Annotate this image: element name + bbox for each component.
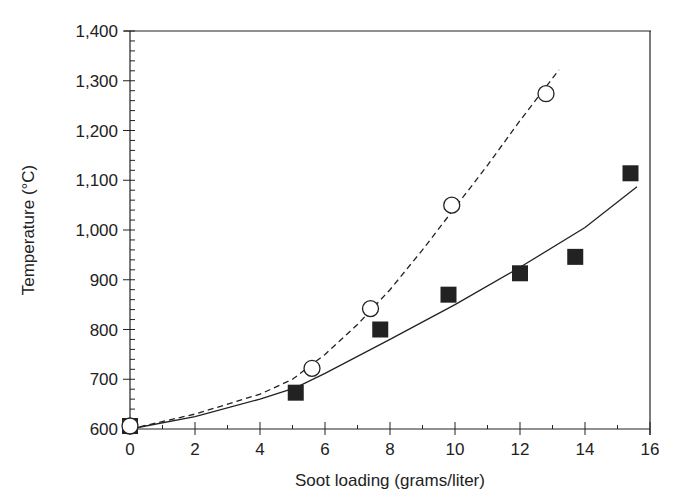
y-tick-label: 1,000 <box>75 221 118 240</box>
x-tick-label: 4 <box>255 440 264 459</box>
x-tick-label: 14 <box>576 440 595 459</box>
fit-lines <box>130 70 637 429</box>
dashed-fit-line <box>130 70 559 429</box>
x-tick-label: 10 <box>446 440 465 459</box>
x-tick-label: 16 <box>641 440 660 459</box>
y-axis: 6007008009001,0001,1001,2001,3001,400 <box>75 22 135 439</box>
y-tick-label: 900 <box>90 271 118 290</box>
y-tick-label: 1,100 <box>75 171 118 190</box>
y-axis-title: Temperature (°C) <box>19 165 38 296</box>
y-tick-label: 1,400 <box>75 22 118 41</box>
y-tick-label: 1,200 <box>75 122 118 141</box>
y-tick-label: 800 <box>90 321 118 340</box>
x-tick-label: 6 <box>320 440 329 459</box>
chart: 6007008009001,0001,1001,2001,3001,400 02… <box>0 0 678 504</box>
circle-marker <box>363 301 379 317</box>
y-tick-label: 1,300 <box>75 72 118 91</box>
x-tick-label: 8 <box>385 440 394 459</box>
data-markers <box>122 86 639 434</box>
solid-fit-line <box>130 187 637 429</box>
x-axis: 0246810121416 <box>125 422 659 459</box>
circle-marker <box>122 418 138 434</box>
square-marker <box>288 385 304 401</box>
x-tick-label: 12 <box>511 440 530 459</box>
x-axis-title: Soot loading (grams/liter) <box>295 471 485 490</box>
plot-frame <box>124 31 651 435</box>
square-marker <box>372 322 388 338</box>
square-marker <box>623 165 639 181</box>
circle-marker <box>304 360 320 376</box>
x-tick-label: 0 <box>125 440 134 459</box>
y-tick-label: 700 <box>90 370 118 389</box>
circle-marker <box>444 197 460 213</box>
y-tick-label: 600 <box>90 420 118 439</box>
square-marker <box>512 265 528 281</box>
square-marker <box>441 287 457 303</box>
square-marker <box>567 249 583 265</box>
x-tick-label: 2 <box>190 440 199 459</box>
circle-marker <box>538 86 554 102</box>
